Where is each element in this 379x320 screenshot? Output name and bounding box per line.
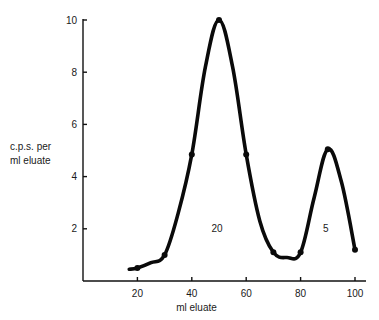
elution-curve — [129, 20, 355, 269]
peak-label: 5 — [323, 223, 329, 234]
x-tick-label: 20 — [132, 288, 144, 299]
y-axis-label-line-2: ml eluate — [10, 154, 51, 168]
x-tick-label: 40 — [186, 288, 198, 299]
y-tick-label: 6 — [71, 119, 77, 130]
y-axis-label: c.p.s. per ml eluate — [10, 140, 51, 168]
elution-chart: 24681020406080100 205 — [0, 0, 379, 320]
data-point-marker — [298, 249, 304, 255]
y-tick-label: 2 — [71, 223, 77, 234]
data-point-marker — [216, 17, 222, 23]
y-tick-label: 8 — [71, 67, 77, 78]
data-point-marker — [270, 249, 276, 255]
peak-label: 20 — [211, 223, 223, 234]
data-point-marker — [352, 247, 358, 253]
data-point-marker — [134, 265, 140, 271]
y-tick-label: 10 — [66, 15, 78, 26]
x-axis-label: ml eluate — [0, 302, 379, 314]
data-point-marker — [325, 146, 331, 152]
axes — [83, 19, 366, 281]
data-point-marker — [243, 151, 249, 157]
x-tick-label: 60 — [241, 288, 253, 299]
y-tick-label: 4 — [71, 171, 77, 182]
y-axis-label-line-1: c.p.s. per — [10, 140, 51, 154]
ticks: 24681020406080100 — [66, 15, 364, 300]
x-tick-label: 100 — [347, 288, 364, 299]
peak-annotations: 205 — [211, 223, 329, 234]
data-point-marker — [162, 252, 168, 258]
data-point-marker — [189, 151, 195, 157]
x-tick-label: 80 — [295, 288, 307, 299]
